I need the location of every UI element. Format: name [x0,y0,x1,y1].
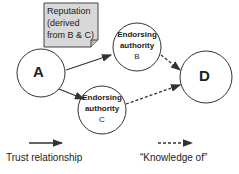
knowledge-arrow-c-d [126,85,180,104]
knowledge-arrow-b-d [161,55,180,70]
callout-text: Reputation (derived from B & C) [47,5,94,41]
node-a-label: A [33,63,44,80]
callout-line: from B & C) [47,29,94,41]
trust-arrow-a-b [66,55,111,70]
node-c-line: Endorsing [78,92,126,103]
callout-line: (derived [47,17,94,29]
callout-line: Reputation [47,5,94,17]
node-b-line: authority [113,40,161,51]
node-d-label: D [199,67,210,84]
legend-trust-label: Trust relationship [6,152,82,163]
legend-knowledge-label: “Knowledge of” [140,152,207,163]
node-b-line: B [113,51,161,62]
node-b-label: Endorsing authority B [113,29,161,62]
node-b-line: Endorsing [113,29,161,40]
node-c-label: Endorsing authority C [78,92,126,125]
node-c-line: C [78,114,126,125]
node-c-line: authority [78,103,126,114]
diagram-canvas [0,0,239,174]
